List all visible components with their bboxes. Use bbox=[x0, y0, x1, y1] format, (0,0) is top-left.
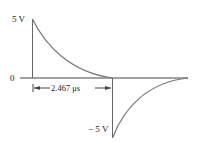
label-minus-5v: − 5 V bbox=[88, 125, 108, 134]
arrow-right-head-icon bbox=[105, 86, 111, 90]
waveform-plot bbox=[0, 0, 199, 143]
positive-decay-curve bbox=[33, 19, 113, 78]
label-zero: 0 bbox=[10, 74, 15, 83]
label-5v: 5 V bbox=[12, 15, 25, 24]
waveform-diagram: 5 V 0 2.467 μs − 5 V bbox=[0, 0, 199, 143]
arrow-left-head-icon bbox=[34, 86, 40, 90]
negative-decay-curve bbox=[113, 78, 189, 138]
label-interval: 2.467 μs bbox=[51, 84, 80, 93]
